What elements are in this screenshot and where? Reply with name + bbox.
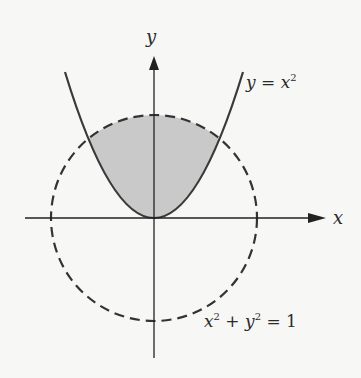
circle-label: x2 + y2 = 1 [204, 311, 297, 331]
parabola-label-exponent: 2 [290, 72, 296, 83]
diagram-svg [0, 0, 361, 378]
y-axis-arrow-icon [149, 56, 159, 70]
circle-label-x: x [204, 311, 214, 331]
x-axis-label: x [333, 207, 343, 228]
diagram-canvas: y x y = x2 x2 + y2 = 1 [0, 0, 361, 378]
parabola-label-base: y = x [246, 72, 290, 92]
parabola-label: y = x2 [246, 72, 297, 92]
x-axis-arrow-icon [308, 213, 326, 223]
circle-label-mid: + y [220, 311, 255, 331]
circle-label-end: = 1 [261, 311, 297, 331]
y-axis-label: y [146, 26, 156, 47]
